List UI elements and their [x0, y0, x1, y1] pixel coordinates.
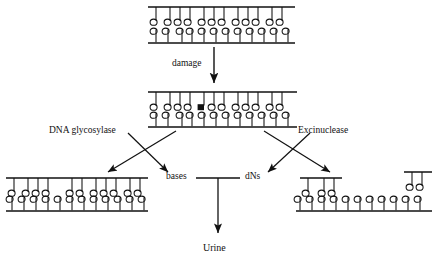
excinuclease-arrow-to-dns: [268, 133, 310, 172]
excised-oligonucleotide-fragment: [404, 172, 432, 190]
dns-label: dNs: [245, 172, 260, 182]
damaged-duplex-dna: [148, 92, 297, 127]
glycosylase-arrow-to-dna: [108, 131, 176, 172]
urine-label: Urine: [203, 243, 226, 253]
intact-duplex-dna: [148, 7, 295, 43]
bases-label: bases: [166, 172, 187, 182]
damaged-base-marker: [198, 92, 204, 110]
oligonucleotide-excised-dna: [294, 172, 432, 211]
damage-label: damage: [172, 59, 202, 69]
dna-glycosylase-label: DNA glycosylase: [49, 126, 116, 136]
diagram-canvas: damage DNA glycosylase Excinuclease base…: [0, 0, 440, 262]
excinuclease-label: Excinuclease: [298, 126, 348, 136]
base-excised-dna: [6, 178, 148, 211]
urine-junction: [196, 178, 240, 233]
